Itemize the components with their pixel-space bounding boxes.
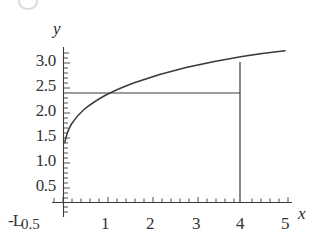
x-tick-label-3: 3 — [185, 215, 207, 232]
y-tick-label-1-5: 1.5 — [14, 127, 56, 144]
x-tick-label-1: 1 — [94, 215, 116, 232]
y-tick-label-0-5: 0.5 — [14, 177, 56, 194]
y-tick-label-2-0: 2.0 — [14, 102, 56, 119]
x-tick-label-5: 5 — [274, 215, 296, 232]
x-axis-minor-ticks — [54, 197, 288, 203]
x-tick-label-4: 4 — [229, 215, 251, 232]
origin-label-prefix: -L — [8, 211, 22, 230]
x-axis-title: x — [298, 205, 306, 222]
chart-figure: y x 3.0 2.5 2.0 1.5 1.0 0.5 -L0.5 1 2 3 … — [0, 0, 329, 251]
x-tick-label-2: 2 — [139, 215, 161, 232]
y-tick-label-1-0: 1.0 — [14, 152, 56, 169]
origin-label-value: 0.5 — [21, 216, 40, 232]
y-axis-title: y — [53, 20, 61, 37]
log-curve — [65, 51, 285, 143]
x-axis-origin-label: -L0.5 — [8, 212, 41, 229]
y-tick-label-2-5: 2.5 — [14, 77, 56, 94]
y-tick-label-3-0: 3.0 — [14, 52, 56, 69]
